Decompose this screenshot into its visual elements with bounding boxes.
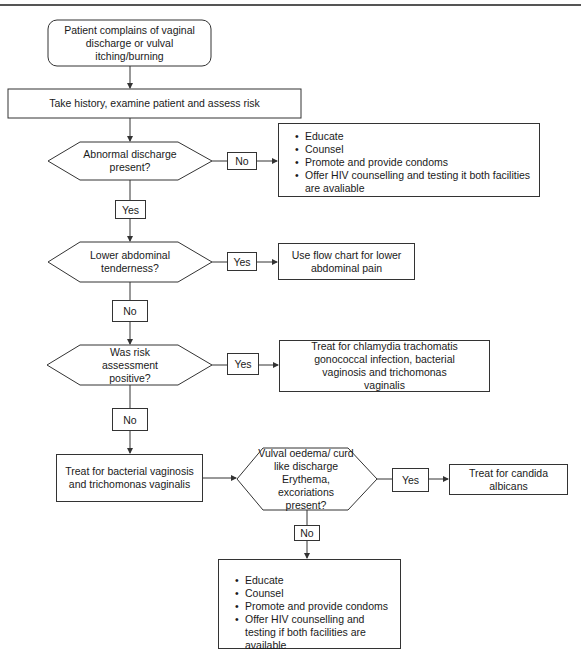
treat-chlamydia-node: Treat for chlamydia trachomatis gonococc…: [279, 340, 490, 392]
edge-label-yes: Yes: [392, 468, 429, 492]
edge-label-yes: Yes: [227, 252, 257, 271]
decision-risk-assessment: Was risk assessment positive?: [82, 345, 178, 385]
lower-abdominal-pain-node: Use flow chart for lower abdominal pain: [278, 243, 415, 280]
start-node: Patient complains of vaginal discharge o…: [56, 20, 203, 66]
decision-vulval-oedema: Vulval oedema/ curd like discharge Eryth…: [258, 448, 354, 510]
advice-item: Offer HIV counselling and testing if bot…: [245, 613, 392, 652]
advice-list-top: Educate Counsel Promote and provide cond…: [289, 130, 531, 195]
advice-box-bottom: Educate Counsel Promote and provide cond…: [218, 559, 401, 649]
advice-item: Counsel: [305, 143, 531, 156]
advice-item: Counsel: [245, 587, 392, 600]
edge-label-no: No: [294, 525, 320, 541]
treat-candida-node: Treat for candida albicans: [449, 464, 568, 495]
edge-label-no: No: [112, 408, 148, 431]
advice-item: Educate: [245, 574, 392, 587]
advice-item: Educate: [305, 130, 531, 143]
treat-bv-node: Treat for bacterial vaginosis and tricho…: [56, 454, 203, 502]
decision-lower-abdominal-tenderness: Lower abdominal tenderness?: [82, 242, 178, 282]
history-node: Take history, examine patient and assess…: [8, 89, 301, 118]
edge-label-no: No: [227, 152, 257, 170]
advice-box-top: Educate Counsel Promote and provide cond…: [278, 123, 540, 197]
advice-list-bottom: Educate Counsel Promote and provide cond…: [229, 574, 392, 652]
edge-label-yes: Yes: [227, 353, 259, 375]
decision-abnormal-discharge: Abnormal discharge present?: [82, 142, 178, 180]
edge-label-no: No: [112, 300, 148, 322]
edge-label-yes: Yes: [115, 200, 146, 219]
advice-item: Promote and provide condoms: [245, 600, 392, 613]
advice-item: Offer HIV counselling and testing it bot…: [305, 169, 531, 195]
advice-item: Promote and provide condoms: [305, 156, 531, 169]
